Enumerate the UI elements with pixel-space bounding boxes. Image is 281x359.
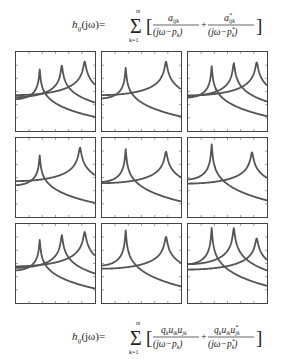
term2-denominator: (jω−p*k) (208, 338, 238, 350)
mode-curve-3 (16, 232, 95, 266)
mode-curve-3 (188, 62, 267, 95)
term1-numerator: qkuikujk (161, 325, 187, 336)
right-bracket: ] (256, 327, 262, 348)
frf-plot (16, 52, 95, 131)
frf-plot (188, 224, 267, 303)
frf-panel-2-2 (101, 137, 182, 218)
sum-upper-limit: m (136, 320, 141, 326)
formula-top: hij(jω)= m Σ k=1 [ aijk (jω−pk) + a*ijk … (0, 2, 281, 42)
plus-sign: + (201, 19, 207, 30)
formula-bottom-svg: hij(jω)= m Σ k=1 [ qkuikujk (jω−pk) + qk… (0, 314, 281, 356)
formula-lhs: hij(jω)= (72, 330, 105, 345)
sum-symbol: Σ (130, 15, 142, 37)
mode-curve-2 (102, 237, 181, 269)
formula-top-svg: hij(jω)= m Σ k=1 [ aijk (jω−pk) + a*ijk … (0, 2, 281, 44)
frf-plot (102, 138, 181, 217)
frf-plot (102, 224, 181, 303)
frf-panel-3-2 (101, 223, 182, 304)
formula-lhs: hij(jω)= (72, 18, 105, 33)
left-bracket: [ (146, 15, 152, 36)
formula-bottom: hij(jω)= m Σ k=1 [ qkuikujk (jω−pk) + qk… (0, 314, 281, 354)
right-bracket: ] (256, 15, 262, 36)
frf-panel-3-3 (187, 223, 268, 304)
mode-curve-2 (188, 153, 267, 184)
term2-numerator: qkuiku*jk (214, 324, 240, 336)
frf-plot (16, 224, 95, 303)
frf-panel-grid (15, 51, 267, 305)
mode-curve-2 (16, 148, 95, 181)
plus-sign: + (201, 331, 207, 342)
left-bracket: [ (146, 327, 152, 348)
mode-curve-1 (102, 149, 181, 201)
term1-denominator: (jω−pk) (153, 27, 183, 38)
term2-denominator: (jω−p*k) (208, 26, 238, 38)
term1-denominator: (jω−pk) (153, 339, 183, 350)
mode-curve-1 (16, 240, 95, 289)
frf-panel-1-1 (15, 51, 96, 132)
mode-curve-3 (16, 62, 95, 96)
frf-plot (102, 52, 181, 131)
frf-panel-1-3 (187, 51, 268, 132)
frf-plot (188, 138, 267, 217)
sum-upper-limit: m (136, 8, 141, 14)
mode-curve-2 (188, 228, 267, 270)
term1-numerator: aijk (168, 12, 179, 24)
frf-panel-2-1 (15, 137, 96, 218)
mode-curve-1 (102, 230, 181, 286)
frf-plot (16, 138, 95, 217)
mode-curve-1 (188, 144, 267, 200)
frf-plot (188, 52, 267, 131)
mode-curve-1 (188, 228, 267, 286)
sum-lower-limit: k=1 (129, 37, 138, 43)
term2-numerator: a*ijk (224, 12, 235, 24)
sum-lower-limit: k=1 (129, 349, 138, 355)
sum-symbol: Σ (130, 327, 142, 349)
mode-curve-2 (102, 62, 181, 95)
mode-curve-1 (16, 69, 95, 117)
frf-panel-3-1 (15, 223, 96, 304)
frf-panel-1-2 (101, 51, 182, 132)
frf-panel-2-3 (187, 137, 268, 218)
